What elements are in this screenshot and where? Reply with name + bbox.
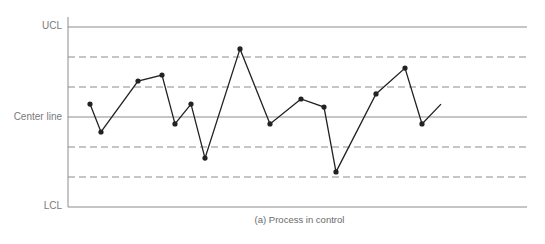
data-points [87,46,424,174]
data-point [373,91,378,96]
data-point [321,105,326,110]
control-chart [0,0,545,244]
data-point [172,121,177,126]
lcl-label: LCL [2,200,62,212]
data-point [202,156,207,161]
center-line-label: Center line [2,111,62,123]
data-point [188,102,193,107]
data-point [98,129,103,134]
data-point [267,121,272,126]
data-point [402,66,407,71]
data-point [159,72,164,77]
caption-text: (a) Process in control [255,214,345,225]
data-series-line [90,49,441,172]
data-point [333,169,338,174]
data-point [298,96,303,101]
data-point [419,121,424,126]
ucl-label: UCL [2,20,62,32]
reference-lines [68,27,527,207]
chart-caption: (a) Process in control [0,214,545,225]
data-point [87,102,92,107]
data-point [135,78,140,83]
data-point [237,46,242,51]
